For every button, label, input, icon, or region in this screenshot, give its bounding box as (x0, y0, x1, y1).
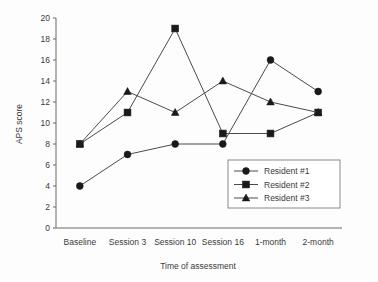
series-2 (76, 25, 321, 147)
data-point-circle (219, 141, 226, 148)
y-axis-title: APS score (14, 104, 24, 144)
x-tick-label: 2-month (303, 237, 334, 247)
data-point-square (219, 130, 226, 137)
legend-label: Resident #1 (264, 166, 310, 176)
legend-item-1[interactable]: Resident #1 (234, 166, 310, 176)
legend-label: Resident #2 (264, 180, 310, 190)
x-tick-label: Baseline (64, 237, 97, 247)
data-point-circle (76, 183, 83, 190)
data-point-circle (172, 141, 179, 148)
data-point-square (172, 25, 179, 32)
y-tick-label: 18 (41, 34, 51, 44)
series-line (80, 29, 318, 145)
data-point-circle (243, 168, 250, 175)
x-tick-label: Session 16 (202, 237, 244, 247)
y-tick-layer: 02468101214161820 (41, 13, 56, 233)
data-point-triangle (124, 88, 131, 95)
x-tick-layer: BaselineSession 3Session 10Session 161-m… (64, 237, 334, 247)
y-tick-label: 10 (41, 118, 51, 128)
x-tick-label: 1-month (255, 237, 286, 247)
legend-label: Resident #3 (264, 193, 310, 203)
chart-figure: 02468101214161820 BaselineSession 3Sessi… (0, 0, 378, 282)
data-point-square (124, 109, 131, 116)
data-point-square (243, 181, 250, 188)
data-point-circle (124, 151, 131, 158)
data-point-triangle (219, 77, 226, 84)
chart-legend: Resident #1Resident #2Resident #3 (228, 160, 340, 208)
y-tick-label: 2 (45, 202, 50, 212)
y-tick-label: 20 (41, 13, 51, 23)
series-3 (76, 77, 322, 147)
x-axis-title: Time of assessment (160, 261, 236, 271)
y-tick-label: 4 (45, 181, 50, 191)
legend-item-2[interactable]: Resident #2 (234, 180, 310, 190)
x-tick-label: Session 3 (109, 237, 147, 247)
y-tick-label: 0 (45, 223, 50, 233)
data-point-triangle (267, 98, 274, 105)
data-point-square (267, 130, 274, 137)
y-tick-label: 16 (41, 55, 51, 65)
data-point-circle (315, 88, 322, 95)
series-line (80, 81, 318, 144)
y-tick-label: 8 (45, 139, 50, 149)
y-tick-label: 14 (41, 76, 51, 86)
x-tick-label: Session 10 (154, 237, 196, 247)
y-tick-label: 6 (45, 160, 50, 170)
y-tick-label: 12 (41, 97, 51, 107)
line-chart: 02468101214161820 BaselineSession 3Sessi… (0, 0, 378, 282)
data-point-triangle (171, 109, 178, 116)
data-point-circle (267, 57, 274, 64)
